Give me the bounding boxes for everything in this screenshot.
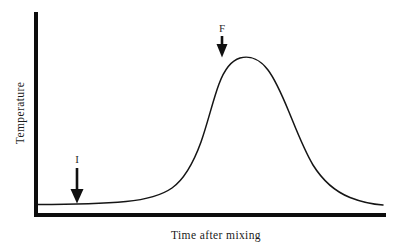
- y-axis-label: Temperature: [14, 82, 27, 144]
- annotation-label-final: F: [219, 22, 225, 34]
- chart-figure: I F Time after mixing Temperature: [0, 0, 402, 247]
- annotation-label-initiation: I: [75, 153, 79, 165]
- temperature-vs-time-chart: I F Time after mixing Temperature: [0, 0, 402, 247]
- x-axis-label: Time after mixing: [171, 229, 261, 242]
- chart-background: [0, 0, 402, 247]
